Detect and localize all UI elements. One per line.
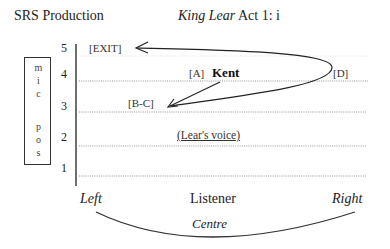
lears-voice-label: (Lear's voice) <box>177 129 240 141</box>
exit-label: [EXIT] <box>89 42 121 54</box>
right-label: Right <box>332 191 362 207</box>
position-bc-label: [B-C] <box>128 97 154 109</box>
character-kent: Kent <box>212 65 239 81</box>
centre-label: Centre <box>192 216 227 232</box>
position-a-label: [A] <box>189 67 204 79</box>
position-d-label: [D] <box>333 67 348 79</box>
left-label: Left <box>80 191 102 207</box>
listener-label: Listener <box>190 191 236 207</box>
diagram-graphics <box>0 0 390 249</box>
exit-arrowhead-icon <box>136 42 148 53</box>
